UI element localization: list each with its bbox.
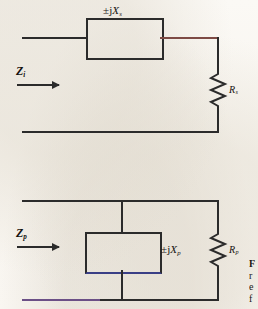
parallel-right-rail-upper [217,200,219,232]
figure-caption-clipped: F r e f [249,258,258,304]
parallel-reactance-label: ±jXp [161,243,181,256]
parallel-lower-node-wire [121,270,123,301]
caption-line-1: F [249,258,258,270]
parallel-bottom-rail-left [22,299,100,301]
parallel-resistance-label: Rp [229,244,239,255]
parallel-resistor-symbol [208,231,228,271]
caption-line-2: r [249,270,258,282]
caption-line-3: e [249,281,258,293]
caption-line-4: f [249,293,258,305]
parallel-reactance-subscript: p [177,249,181,256]
parallel-bottom-rail-right [100,299,219,301]
parallel-reactance-box [85,232,162,274]
parallel-input-impedance-arrow [17,246,59,248]
parallel-impedance-subscript: p [23,233,27,241]
plus-minus-j-symbol-parallel: ±j [161,243,170,255]
parallel-upper-node-wire [121,200,123,232]
parallel-equivalent-circuit: ±jXp Rp Zp [0,0,258,309]
parallel-input-impedance-label: Zp [16,226,27,241]
parallel-right-rail-lower [217,269,219,301]
parallel-resistance-subscript: p [235,248,238,255]
figure-canvas: ±jXs Rs Zi [0,0,258,309]
